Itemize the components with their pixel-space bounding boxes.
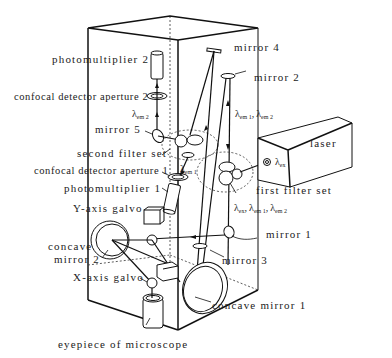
mirror-3 (193, 244, 224, 258)
laser (258, 117, 352, 187)
lambda-em2-left: λem 2 (132, 108, 149, 120)
label-mirror-1: mirror 1 (266, 228, 312, 240)
photomultiplier-2 (151, 51, 163, 79)
label-concave-mirror-2-line1: concave (48, 240, 92, 252)
first-filter-set (197, 152, 253, 192)
label-concave-mirror-1: concave mirror 1 (212, 299, 306, 311)
label-eyepiece: eyepiece of microscope (58, 338, 188, 350)
label-confocal-aperture-2: confocal detector aperture 2 (14, 91, 148, 102)
x-axis-galvo (147, 262, 178, 288)
mirror-2 (221, 71, 246, 79)
lambda-em1: λem 1 (180, 163, 197, 175)
label-concave-mirror-2-line2: mirror 2 (54, 253, 100, 265)
label-laser: laser (310, 137, 337, 149)
mirror-1 (222, 225, 257, 240)
label-mirror-5: mirror 5 (95, 123, 141, 135)
label-first-filter-set: first filter set (256, 184, 332, 196)
lambda-em1-em2-top: λem 1,λem 2 (235, 108, 273, 120)
y-axis-galvo (144, 207, 164, 245)
label-y-axis-galvo: Y-axis galvo (73, 202, 143, 214)
label-mirror-2: mirror 2 (254, 71, 300, 83)
label-mirror-3: mirror 3 (222, 254, 268, 266)
label-mirror-4: mirror 4 (234, 41, 280, 53)
confocal-diagram: photomultiplier 2 confocal detector aper… (0, 0, 392, 358)
eyepiece (143, 294, 163, 328)
label-photomultiplier-1: photomultiplier 1 (64, 182, 161, 194)
lambda-ex-em1-em2: λex,λem 1,λem 2 (234, 202, 287, 214)
label-confocal-aperture-1: confocal detector aperture 1 (34, 165, 168, 176)
label-second-filter-set: second filter set (77, 147, 167, 159)
label-x-axis-galvo: X-axis galvo (73, 271, 144, 283)
label-photomultiplier-2: photomultiplier 2 (52, 53, 149, 65)
